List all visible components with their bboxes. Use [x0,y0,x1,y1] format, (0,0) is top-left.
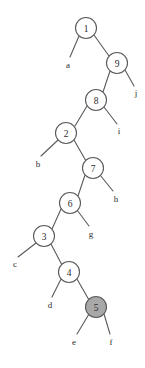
leaf-label: e [72,337,76,347]
tree-canvas: 198276345 ajibhgcdef [0,0,145,368]
tree-node[interactable]: 3 [34,226,55,247]
leaf-label: h [114,194,119,204]
tree-edge [74,140,86,161]
leaf-label: d [48,300,53,310]
tree-edge [52,279,61,297]
tree-node[interactable]: 2 [56,123,77,144]
edges-group [18,35,134,334]
leaf-label: b [36,159,41,169]
tree-edge [41,140,58,156]
tree-edge [18,243,36,257]
tree-node[interactable]: 6 [60,193,81,214]
leaf-label: a [66,60,70,70]
node-label: 7 [91,164,96,174]
nodes-group: 198276345 [34,18,128,318]
tree-edge [104,314,110,334]
tree-edge [103,71,110,92]
tree-node[interactable]: 7 [83,158,104,179]
tree-edge [78,175,85,196]
tree-edge [52,209,61,229]
tree-node[interactable]: 1 [76,18,97,39]
leaf-label: j [134,88,138,98]
node-label: 6 [68,199,73,209]
leaf-label: g [89,229,94,239]
node-label: 8 [94,96,99,106]
leaf-label: c [13,259,17,269]
node-label: 4 [67,268,72,278]
node-label: 3 [42,232,47,242]
tree-node[interactable]: 8 [86,90,107,111]
tree-edge [77,210,89,226]
leaf-label: f [110,337,113,347]
binary-tree-diagram: 198276345 ajibhgcdef [0,0,145,368]
tree-edge [125,70,134,86]
node-label: 2 [64,129,69,139]
tree-edge [70,36,79,57]
tree-edge [94,35,109,56]
tree-edge [75,106,87,126]
leaf-label: i [118,126,121,136]
tree-edge [100,175,113,191]
node-label: 9 [115,59,120,69]
tree-node[interactable]: 5 [86,297,107,318]
tree-edge [104,107,117,124]
tree-edge [77,279,89,300]
node-label: 1 [84,24,89,34]
tree-edge [51,244,62,265]
tree-edge [77,314,89,334]
tree-node[interactable]: 4 [59,262,80,283]
node-label: 5 [94,303,99,313]
tree-node[interactable]: 9 [107,53,128,74]
